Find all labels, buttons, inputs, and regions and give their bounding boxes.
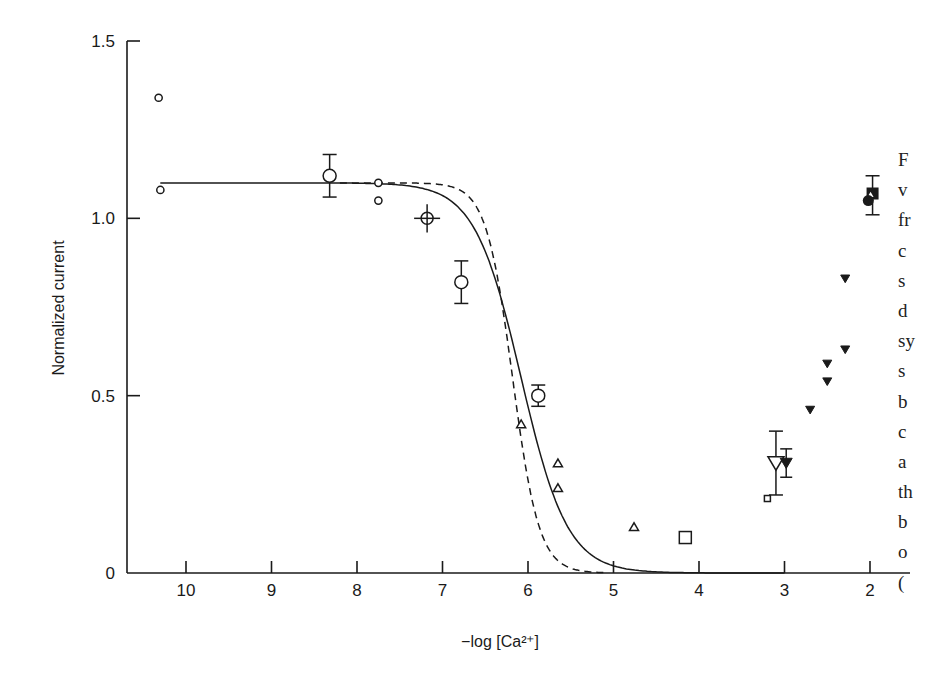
marker-small-circle	[155, 94, 162, 101]
caption-line: o	[898, 537, 915, 567]
caption-line: fr	[898, 205, 915, 235]
marker-filled-circle	[863, 195, 874, 206]
caption-line: a	[898, 447, 915, 477]
tick-labels: 00.51.01.51098765432	[91, 32, 874, 600]
marker-large-circle	[323, 169, 336, 182]
y-axis-title: Normalized current	[50, 240, 67, 376]
caption-line: d	[898, 296, 915, 326]
x-tick-label: 4	[694, 581, 703, 600]
marker-small-circle	[157, 186, 164, 193]
x-tick-label: 10	[177, 581, 196, 600]
x-tick-label: 8	[352, 581, 361, 600]
marker-open-square	[679, 532, 691, 544]
y-tick-label: 0	[106, 564, 115, 583]
axes	[127, 41, 910, 573]
marker-filled-inverted-triangle	[841, 275, 850, 283]
data-points	[155, 94, 880, 543]
caption-line: s	[898, 356, 915, 386]
caption-line: c	[898, 417, 915, 447]
marker-open-triangle	[553, 459, 562, 467]
y-tick-label: 1.5	[91, 32, 115, 51]
caption-line: v	[898, 175, 915, 205]
caption-line: F	[898, 145, 915, 175]
marker-open-triangle	[630, 523, 639, 531]
marker-small-circle	[375, 197, 382, 204]
caption-line: b	[898, 507, 915, 537]
caption-line: b	[898, 387, 915, 417]
marker-open-square	[764, 496, 770, 502]
y-tick-label: 1.0	[91, 209, 115, 228]
caption-line: c	[898, 236, 915, 266]
caption-line: s	[898, 266, 915, 296]
marker-large-circle	[532, 389, 545, 402]
fit-dashed	[340, 183, 605, 573]
marker-filled-inverted-triangle	[823, 360, 832, 368]
x-tick-label: 2	[865, 581, 874, 600]
marker-open-triangle	[553, 484, 562, 492]
marker-filled-inverted-triangle	[806, 406, 815, 414]
x-axis-title: −log [Ca²⁺]	[461, 633, 539, 650]
marker-filled-inverted-triangle	[780, 458, 792, 468]
x-tick-label: 9	[267, 581, 276, 600]
marker-small-circle	[375, 179, 382, 186]
caption-line: (	[898, 568, 915, 598]
x-tick-label: 5	[609, 581, 618, 600]
x-tick-label: 6	[523, 581, 532, 600]
fit-solid	[160, 183, 784, 573]
marker-filled-inverted-triangle	[841, 346, 850, 354]
dose-response-chart: 00.51.01.51098765432 −log [Ca²⁺] Normali…	[0, 0, 941, 683]
y-tick-label: 0.5	[91, 387, 115, 406]
caption-line: th	[898, 477, 915, 507]
fit-curves	[160, 183, 784, 573]
marker-large-circle	[455, 276, 468, 289]
x-tick-label: 3	[780, 581, 789, 600]
caption-line: sy	[898, 326, 915, 356]
figure-caption-cropped: Fvfrcsdsysbcathbo(	[898, 145, 915, 598]
x-tick-label: 7	[438, 581, 447, 600]
marker-filled-inverted-triangle	[823, 378, 832, 386]
